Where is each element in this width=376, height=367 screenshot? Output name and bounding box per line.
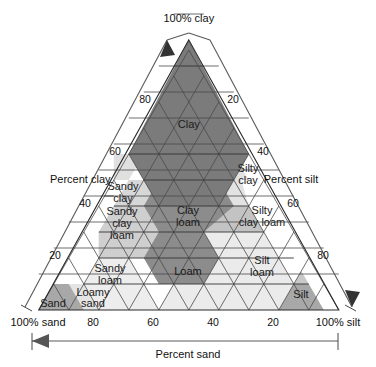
class-label-loam: Loam	[174, 265, 202, 277]
tick-clay-80: 80	[139, 93, 151, 105]
class-label-sandy-clay-loam-line3: loam	[110, 229, 134, 241]
tick-sand-80: 80	[87, 316, 99, 328]
axis-title-bottom: Percent sand	[156, 348, 221, 360]
class-label-loamy-sand-line2: sand	[81, 297, 105, 309]
class-label-sandy-clay-loam-line1: Sandy	[106, 205, 138, 217]
axis-title-left: Percent clay	[50, 173, 111, 185]
class-label-silty-clay-line2: clay	[238, 174, 258, 186]
tick-clay-40: 40	[79, 197, 91, 209]
corner-label-left: 100% sand	[10, 316, 65, 328]
soil-texture-triangle-figure: 100% clay 100% sand 100% silt Percent cl…	[0, 0, 376, 367]
class-label-sandy-loam-line1: Sandy	[94, 262, 126, 274]
class-label-silty-clay-loam-line2: clay loam	[239, 216, 285, 228]
tick-clay-60: 60	[109, 145, 121, 157]
class-label-sandy-clay-line2: clay	[113, 192, 133, 204]
class-label-silty-clay-line1: Silty	[238, 162, 259, 174]
class-label-silt-loam-line2: loam	[250, 266, 274, 278]
class-label-clay-loam-line1: Clay	[177, 204, 200, 216]
tick-silt-20: 20	[227, 93, 239, 105]
region-clay-lower	[144, 180, 234, 206]
class-label-sandy-clay-line1: Sandy	[107, 180, 139, 192]
bottom-axis-arrowhead	[32, 334, 49, 348]
class-label-sandy-clay-loam-line2: clay	[112, 217, 132, 229]
axis-title-right: Percent silt	[264, 173, 318, 185]
tick-silt-60: 60	[287, 197, 299, 209]
corner-label-top: 100% clay	[163, 12, 214, 24]
corner-label-right: 100% silt	[316, 316, 361, 328]
class-label-silty-clay-loam-line1: Silty	[252, 204, 273, 216]
tick-sand-40: 40	[207, 316, 219, 328]
tick-silt-40: 40	[257, 145, 269, 157]
class-label-silt: Silt	[293, 288, 308, 300]
class-label-sandy-loam-line2: loam	[98, 274, 122, 286]
class-label-clay-loam-line2: loam	[176, 216, 200, 228]
region-clay	[129, 40, 249, 180]
ternary-diagram-svg: 100% clay 100% sand 100% silt Percent cl…	[0, 0, 376, 367]
class-label-clay: Clay	[178, 118, 201, 130]
tick-silt-80: 80	[317, 249, 329, 261]
tick-sand-20: 20	[267, 316, 279, 328]
region-silt-top	[294, 271, 309, 284]
class-label-silt-loam-line1: Silt	[254, 254, 269, 266]
tick-clay-20: 20	[49, 249, 61, 261]
tick-sand-60: 60	[147, 316, 159, 328]
class-label-sand: Sand	[40, 297, 66, 309]
